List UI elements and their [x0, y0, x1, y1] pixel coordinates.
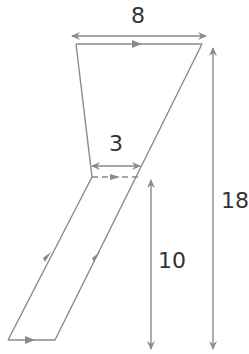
- inner-width-label: 3: [109, 133, 123, 155]
- shape-outline: [8, 44, 202, 340]
- figure-svg: [0, 0, 249, 354]
- lower-height-label: 10: [158, 250, 186, 272]
- top-width-label: 8: [131, 5, 145, 27]
- total-height-label: 18: [221, 190, 249, 212]
